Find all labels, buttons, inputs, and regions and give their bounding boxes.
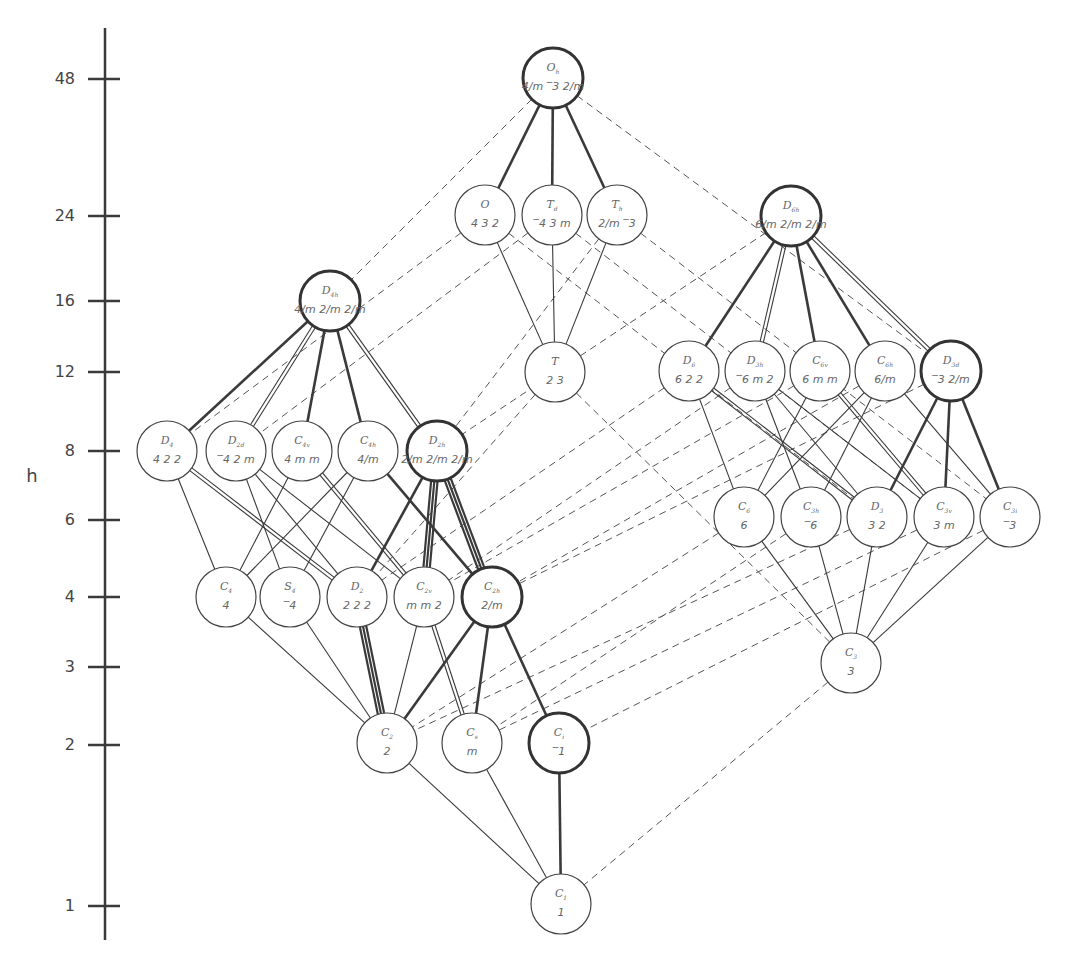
node-circle (790, 341, 850, 401)
node-D6h: D6h6/m 2/m 2/m (755, 186, 826, 246)
edge-solid-D3h-D3 (774, 394, 858, 494)
node-circle (980, 487, 1040, 547)
hermann-mauguin-symbol: 4 m m (284, 453, 319, 466)
hermann-mauguin-symbol: 4 3 2 (471, 217, 499, 230)
hermann-mauguin-symbol: 3 m (933, 519, 954, 532)
edge-solid-Oh-Th (566, 105, 605, 188)
edge-dashed-C3i-Ci (586, 530, 983, 729)
edge-solid-D6h-C6h (807, 242, 870, 346)
edge-solid-Oh-O (498, 105, 539, 188)
hermann-mauguin-symbol: m (467, 745, 478, 758)
node-circle (394, 567, 454, 627)
edge-solid-Ci-C1 (559, 773, 560, 874)
edge-solid-D4-C4 (178, 479, 215, 569)
edge-solid-C2-C1 (409, 763, 539, 883)
axis-tick-label: 48 (55, 69, 75, 88)
node-circle (914, 487, 974, 547)
node-D3: D33 2 (847, 487, 907, 547)
axis-ticks: 48241612864321 (55, 69, 120, 915)
edge-solid-C4v-C2v (320, 473, 406, 575)
group-nodes: Oh4/m ‾3 2/mO4 3 2Td‾4 3 mTh2/m ‾3D6h6/m… (137, 48, 1040, 934)
node-D4h: D4h4/m 2/m 2/m (294, 271, 365, 331)
node-C4v: C4v4 m m (272, 421, 332, 481)
edge-solid-C3v-C3 (867, 542, 928, 637)
hermann-mauguin-symbol: 2/m 2/m 2/m (401, 453, 472, 466)
hermann-mauguin-symbol: 2 2 2 (343, 599, 371, 612)
edge-solid-D2d-S4 (246, 479, 279, 569)
hermann-mauguin-symbol: 4 (223, 599, 230, 612)
hermann-mauguin-symbol: ‾1 (552, 745, 566, 758)
edge-solid-D2h-C2v (423, 481, 437, 568)
hermann-mauguin-symbol: 6 (741, 519, 748, 532)
edge-solid-C6-C3 (762, 541, 834, 639)
node-C4h: C4h4/m (338, 421, 398, 481)
edge-dashed-C3h-Cs (497, 534, 786, 727)
hermann-mauguin-symbol: 3 2 (868, 519, 886, 532)
node-D3d: D3d‾3 2/m (921, 341, 981, 401)
node-D3h: D3h‾6 m 2 (725, 341, 785, 401)
hermann-mauguin-symbol: 4/m 2/m 2/m (294, 303, 365, 316)
edge-solid-D6h-D6 (705, 241, 774, 346)
node-circle (847, 487, 907, 547)
node-circle (327, 567, 387, 627)
node-circle (407, 421, 467, 481)
hermann-mauguin-symbol: ‾3 2/m (931, 373, 969, 386)
edge-solid-D3-C3 (856, 547, 871, 634)
edge-solid-D2d-C2v (260, 469, 401, 578)
edge-solid-C4v-C4 (240, 478, 288, 571)
node-circle (300, 271, 360, 331)
node-circle (725, 341, 785, 401)
node-circle (781, 487, 841, 547)
edge-solid-D2h-D2 (371, 477, 422, 570)
node-C6: C66 (714, 487, 774, 547)
edge-solid-Th-T (566, 243, 606, 344)
node-Oh: Oh4/m ‾3 2/m (522, 48, 584, 108)
schoenflies-symbol: O (480, 198, 489, 211)
node-S4: S4‾4 (260, 567, 320, 627)
node-circle (462, 567, 522, 627)
hermann-mauguin-symbol: ‾4 3 m (532, 217, 570, 230)
edge-solid-C2v-C2 (394, 626, 416, 714)
hermann-mauguin-symbol: 3 (848, 665, 855, 678)
edge-solid-O-T (497, 242, 543, 344)
node-circle (357, 713, 417, 773)
hermann-mauguin-symbol: 6 m m (802, 373, 837, 386)
node-D6: D66 2 2 (659, 341, 719, 401)
edge-dashed-Th-D2h (455, 239, 599, 427)
node-circle (761, 186, 821, 246)
node-C1: C11 (531, 874, 591, 934)
node-C3i: C3i‾3 (980, 487, 1040, 547)
axis-tick-label: 3 (65, 657, 75, 676)
edge-solid-C2h-Cs (476, 627, 488, 714)
edge-solid-D6h-C6v (797, 245, 815, 341)
hermann-mauguin-symbol: 2/m ‾3 (598, 217, 635, 230)
node-Ci: Ci‾1 (529, 713, 589, 773)
edge-solid-D6h-D3h (760, 245, 786, 342)
edge-dashed-O-D4 (191, 233, 461, 433)
node-C3: C33 (821, 633, 881, 693)
hermann-mauguin-symbol: 4 2 2 (153, 453, 181, 466)
node-circle (137, 421, 197, 481)
node-D2h: D2h2/m 2/m 2/m (401, 421, 472, 481)
order-axis: 48241612864321 h (26, 28, 120, 940)
edge-solid-D3d-C3v (945, 401, 949, 487)
node-D2d: D2d‾4 2 m (206, 421, 266, 481)
node-circle (260, 567, 320, 627)
axis-tick-label: 2 (65, 735, 75, 754)
edge-dashed-C6h-C2h (518, 386, 859, 582)
edge-solid-D3h-C3h (766, 399, 801, 489)
axis-tick-label: 24 (55, 206, 75, 225)
edge-solid-D3d-C3i (962, 399, 999, 489)
edge-solid-D4h-D2d (250, 326, 315, 427)
edge-dashed-C6v-C2v (450, 386, 794, 582)
edge-solid-Cs-C1 (487, 769, 547, 877)
node-circle (455, 185, 515, 245)
hermann-mauguin-symbol: ‾6 (804, 519, 818, 532)
edge-solid-C6v-C6 (758, 398, 806, 491)
edge-solid-D2-C2 (360, 626, 384, 715)
node-C2: C22 (357, 713, 417, 773)
edge-solid-C4-C2 (248, 617, 365, 723)
node-circle (855, 341, 915, 401)
node-C3v: C3v3 m (914, 487, 974, 547)
edge-solid-C4h-C4 (247, 473, 347, 576)
